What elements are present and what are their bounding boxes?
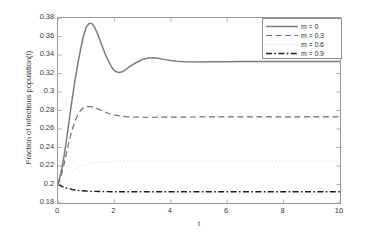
legend-item-label: m = 0.3	[299, 31, 324, 40]
legend-item-label: m = 0.6	[299, 40, 324, 49]
legend-sample-line	[265, 22, 299, 31]
legend-item[interactable]: m = 0.9	[263, 49, 341, 58]
x-axis-tick-labels: 0246810	[57, 206, 341, 220]
legend-item[interactable]: m = 0.6	[263, 40, 341, 49]
legend-sample-line	[265, 40, 299, 49]
x-axis-tick-label: 0	[45, 206, 69, 215]
x-axis-tick-label: 8	[271, 206, 295, 215]
figure-canvas: 0.180.20.220.240.260.280.30.320.340.360.…	[0, 0, 365, 246]
series-line	[58, 185, 340, 192]
legend-sample-line	[265, 49, 299, 58]
legend: m = 0m = 0.3m = 0.6m = 0.9	[262, 18, 342, 59]
series-line	[58, 107, 340, 185]
x-axis-tick-label: 4	[158, 206, 182, 215]
legend-item[interactable]: m = 0.3	[263, 31, 341, 40]
x-axis-title: t	[57, 219, 341, 228]
x-axis-tick-label: 6	[214, 206, 238, 215]
series-line	[58, 161, 340, 184]
legend-item-label: m = 0	[299, 22, 318, 31]
legend-item-label: m = 0.9	[299, 49, 324, 58]
y-axis-title: Fraction of Infectious population(I)	[24, 13, 33, 203]
legend-sample-line	[265, 31, 299, 40]
legend-item[interactable]: m = 0	[263, 22, 341, 31]
x-axis-tick-label: 10	[327, 206, 351, 215]
x-axis-tick-label: 2	[101, 206, 125, 215]
